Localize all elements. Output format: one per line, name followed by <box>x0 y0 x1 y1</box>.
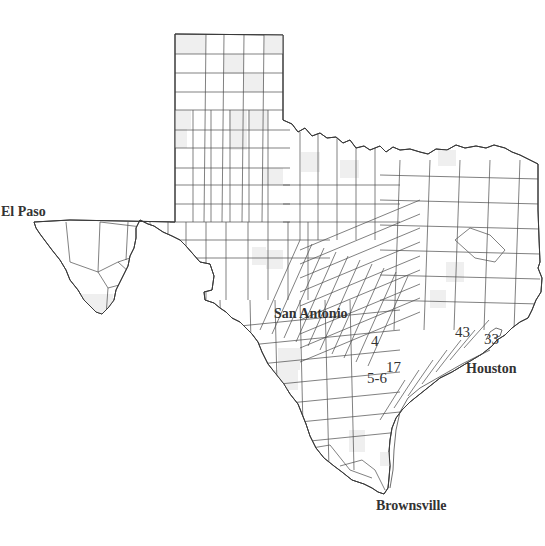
shaded-county <box>264 35 284 54</box>
shaded-county <box>278 348 300 370</box>
shaded-county <box>349 430 365 452</box>
shaded-county <box>230 131 247 150</box>
shaded-county <box>229 110 247 129</box>
shaded-county <box>262 168 283 185</box>
city-label-houston: Houston <box>466 362 517 376</box>
county-boundary <box>220 300 224 470</box>
site-marker-43: 43 <box>455 325 470 340</box>
site-marker-4: 4 <box>371 334 379 349</box>
site-marker-33: 33 <box>484 332 499 347</box>
shaded-county <box>446 262 464 282</box>
shaded-county <box>252 247 266 265</box>
shaded-county <box>272 370 298 390</box>
shaded-county <box>244 74 264 92</box>
city-label-el-paso: El Paso <box>1 205 46 219</box>
site-marker-5-6: 5-6 <box>367 371 387 386</box>
county-boundary <box>160 262 162 318</box>
shaded-county <box>176 35 206 54</box>
shaded-county <box>420 404 438 418</box>
shaded-county <box>248 110 268 129</box>
shaded-county <box>171 129 187 148</box>
shaded-county <box>224 54 244 74</box>
city-label-san-antonio: San Antonio <box>274 307 348 321</box>
shaded-county <box>438 150 456 166</box>
site-marker-17: 17 <box>386 360 401 375</box>
texas-county-map: El Paso San Antonio Houston Brownsville … <box>0 0 545 546</box>
map-canvas <box>0 0 545 546</box>
shaded-county <box>266 250 283 269</box>
shaded-county <box>301 152 320 172</box>
city-label-brownsville: Brownsville <box>376 499 447 513</box>
shaded-county <box>380 452 402 466</box>
shaded-county <box>171 110 191 129</box>
shaded-county <box>430 290 446 308</box>
shaded-county <box>113 300 153 350</box>
